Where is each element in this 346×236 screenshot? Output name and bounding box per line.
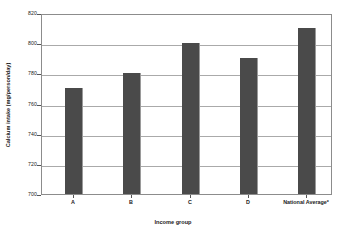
x-tick-label: National Average* [266,199,346,205]
bar [240,58,258,194]
plot-area [41,14,332,195]
x-axis-title: Income group [0,219,346,225]
x-tick [248,195,249,198]
x-tick [306,195,307,198]
y-tick-label: 800 [11,41,37,46]
bar [65,88,83,194]
y-tick-label: 700 [11,192,37,197]
y-tick-label: 720 [11,162,37,167]
bar [182,43,200,194]
x-tick [190,195,191,198]
x-tick [73,195,74,198]
y-tick [37,195,41,196]
y-tick-label: 760 [11,102,37,107]
bar [123,73,141,194]
x-tick [131,195,132,198]
y-tick-label: 820 [11,11,37,16]
bar [298,28,316,194]
bar-chart: Calcium intake (mg/person/day) 700720740… [0,0,346,236]
y-tick-label: 740 [11,132,37,137]
y-tick-label: 780 [11,71,37,76]
